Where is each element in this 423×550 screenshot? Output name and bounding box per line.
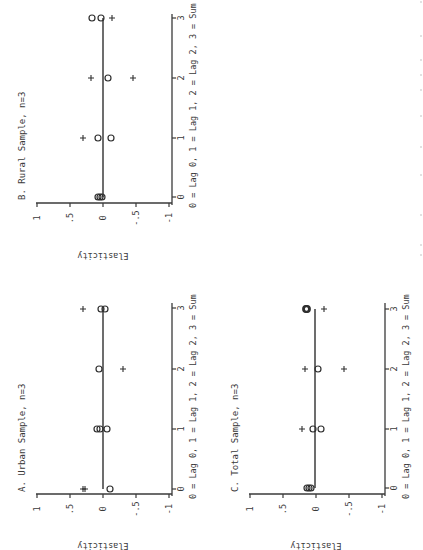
panel-a: A. Urban Sample, n=3 1 .5 0 -.5 -1 0 1 2… — [17, 294, 198, 550]
y-tick-label: 0 — [98, 215, 108, 220]
panel-b: B. Rural Sample, n=3 1 .5 0 -.5 -1 0 1 2… — [17, 3, 198, 261]
circle-marker — [304, 306, 310, 312]
x-tick-label: 1 — [176, 135, 186, 140]
panel-c: C. Total Sample, n=3 1 .5 0 -.5 -1 0 1 2… — [230, 294, 411, 550]
plus-marker — [299, 426, 305, 432]
panel-a-title: A. Urban Sample, n=3 — [17, 384, 27, 492]
plus-marker — [341, 366, 347, 372]
x-tick-label: 1 — [389, 426, 399, 431]
x-tick-label: 3 — [176, 15, 186, 20]
plus-marker — [302, 366, 308, 372]
panel-b-points — [80, 15, 136, 200]
plus-marker — [321, 306, 327, 312]
x-tick-label: 0 — [389, 485, 399, 490]
y-tick-label: -.5 — [131, 501, 141, 516]
margin-artifacts — [420, 1, 422, 256]
circle-marker — [96, 366, 102, 372]
panel-c-title: C. Total Sample, n=3 — [230, 384, 240, 492]
x-tick-label: 0 — [176, 194, 186, 199]
plus-marker — [80, 306, 86, 312]
plus-marker — [130, 75, 136, 81]
plus-marker — [120, 366, 126, 372]
y-tick-label: 1 — [245, 506, 255, 511]
panel-c-xlabel: 0 = Lag 0, 1 = Lag 1, 2 = Lag 2, 3 = Sum — [401, 294, 411, 499]
y-tick-label: -1 — [377, 504, 387, 514]
panel-b-title: B. Rural Sample, n=3 — [17, 92, 27, 200]
y-tick-label: 1 — [32, 215, 42, 220]
x-tick-label: 2 — [176, 75, 186, 80]
x-tick-label: 3 — [176, 305, 186, 310]
panel-a-xlabel: 0 = Lag 0, 1 = Lag 1, 2 = Lag 2, 3 = Sum — [188, 294, 198, 499]
y-tick-label: -.5 — [344, 501, 354, 516]
circle-marker — [315, 366, 321, 372]
panel-c-points — [299, 306, 347, 491]
plus-marker — [88, 75, 94, 81]
circle-marker — [105, 75, 111, 81]
y-tick-label: -1 — [164, 213, 174, 223]
panel-b-xlabel: 0 = Lag 0, 1 = Lag 1, 2 = Lag 2, 3 = Sum — [188, 3, 198, 208]
y-tick-label: -.5 — [131, 210, 141, 225]
panel-b-ylabel: Elasticity — [77, 251, 128, 261]
circle-marker — [107, 486, 113, 492]
x-tick-label: 3 — [389, 306, 399, 311]
figure-canvas: B. Rural Sample, n=3 1 .5 0 -.5 -1 0 1 2… — [0, 0, 423, 550]
y-tick-label: 0 — [98, 506, 108, 511]
circle-marker — [104, 426, 110, 432]
x-tick-label: 2 — [389, 366, 399, 371]
plus-marker — [80, 135, 86, 141]
circle-marker — [95, 135, 101, 141]
circle-marker — [89, 15, 95, 21]
y-tick-label: .5 — [278, 504, 288, 514]
y-tick-label: .5 — [65, 213, 75, 223]
circle-marker — [108, 135, 114, 141]
y-tick-label: -1 — [164, 504, 174, 514]
circle-marker — [318, 426, 324, 432]
plus-marker — [109, 15, 115, 21]
panel-a-ylabel: Elasticity — [77, 541, 128, 550]
panel-c-ylabel: Elasticity — [290, 541, 341, 550]
x-tick-label: 2 — [176, 366, 186, 371]
x-tick-label: 0 — [176, 486, 186, 491]
y-tick-label: 0 — [311, 506, 321, 511]
x-tick-label: 1 — [176, 426, 186, 431]
y-tick-label: .5 — [65, 504, 75, 514]
y-tick-label: 1 — [32, 506, 42, 511]
